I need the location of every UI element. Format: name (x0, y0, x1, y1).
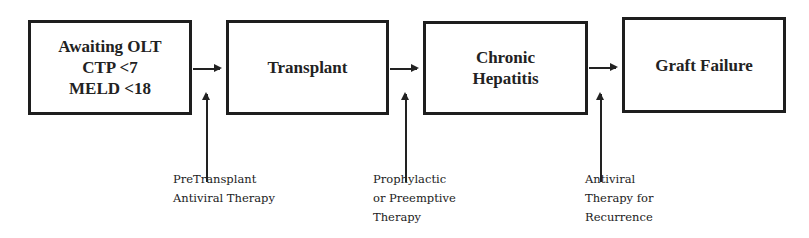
arrow-pretransplant-therapy (206, 94, 208, 182)
intervention-recurrence: Antiviral Therapy for Recurrence (585, 170, 653, 227)
stage-graft-failure: Graft Failure (622, 17, 786, 113)
arrow-transplant-to-chronic (390, 68, 417, 70)
stage-awaiting-olt-line-3: MELD <18 (69, 78, 151, 99)
stage-graft-failure-label: Graft Failure (655, 55, 752, 76)
stage-chronic-hepatitis-line-1: Chronic (476, 47, 535, 68)
arrow-awaiting-to-transplant (193, 68, 220, 70)
arrow-recurrence-therapy (600, 94, 602, 182)
intervention-prophylactic-line-2: or Preemptive (373, 189, 456, 208)
stage-awaiting-olt: Awaiting OLT CTP <7 MELD <18 (28, 20, 192, 115)
stage-chronic-hepatitis-line-2: Hepatitis (472, 68, 538, 89)
intervention-prophylactic-line-1: Prophylactic (373, 170, 456, 189)
intervention-pretransplant-line-2: Antiviral Therapy (173, 189, 275, 208)
arrow-prophylactic-therapy (405, 94, 407, 182)
stage-awaiting-olt-line-2: CTP <7 (82, 57, 138, 78)
intervention-prophylactic: Prophylactic or Preemptive Therapy (373, 170, 456, 227)
stage-transplant-label: Transplant (268, 57, 348, 78)
intervention-recurrence-line-3: Recurrence (585, 208, 653, 227)
stage-awaiting-olt-line-1: Awaiting OLT (58, 36, 161, 57)
intervention-pretransplant-line-1: PreTransplant (173, 170, 275, 189)
intervention-pretransplant: PreTransplant Antiviral Therapy (173, 170, 275, 208)
intervention-recurrence-line-1: Antiviral (585, 170, 653, 189)
arrow-chronic-to-graft (589, 67, 616, 69)
intervention-recurrence-line-2: Therapy for (585, 189, 653, 208)
stage-transplant: Transplant (226, 20, 389, 115)
stage-chronic-hepatitis: Chronic Hepatitis (423, 21, 588, 115)
intervention-prophylactic-line-3: Therapy (373, 208, 456, 227)
